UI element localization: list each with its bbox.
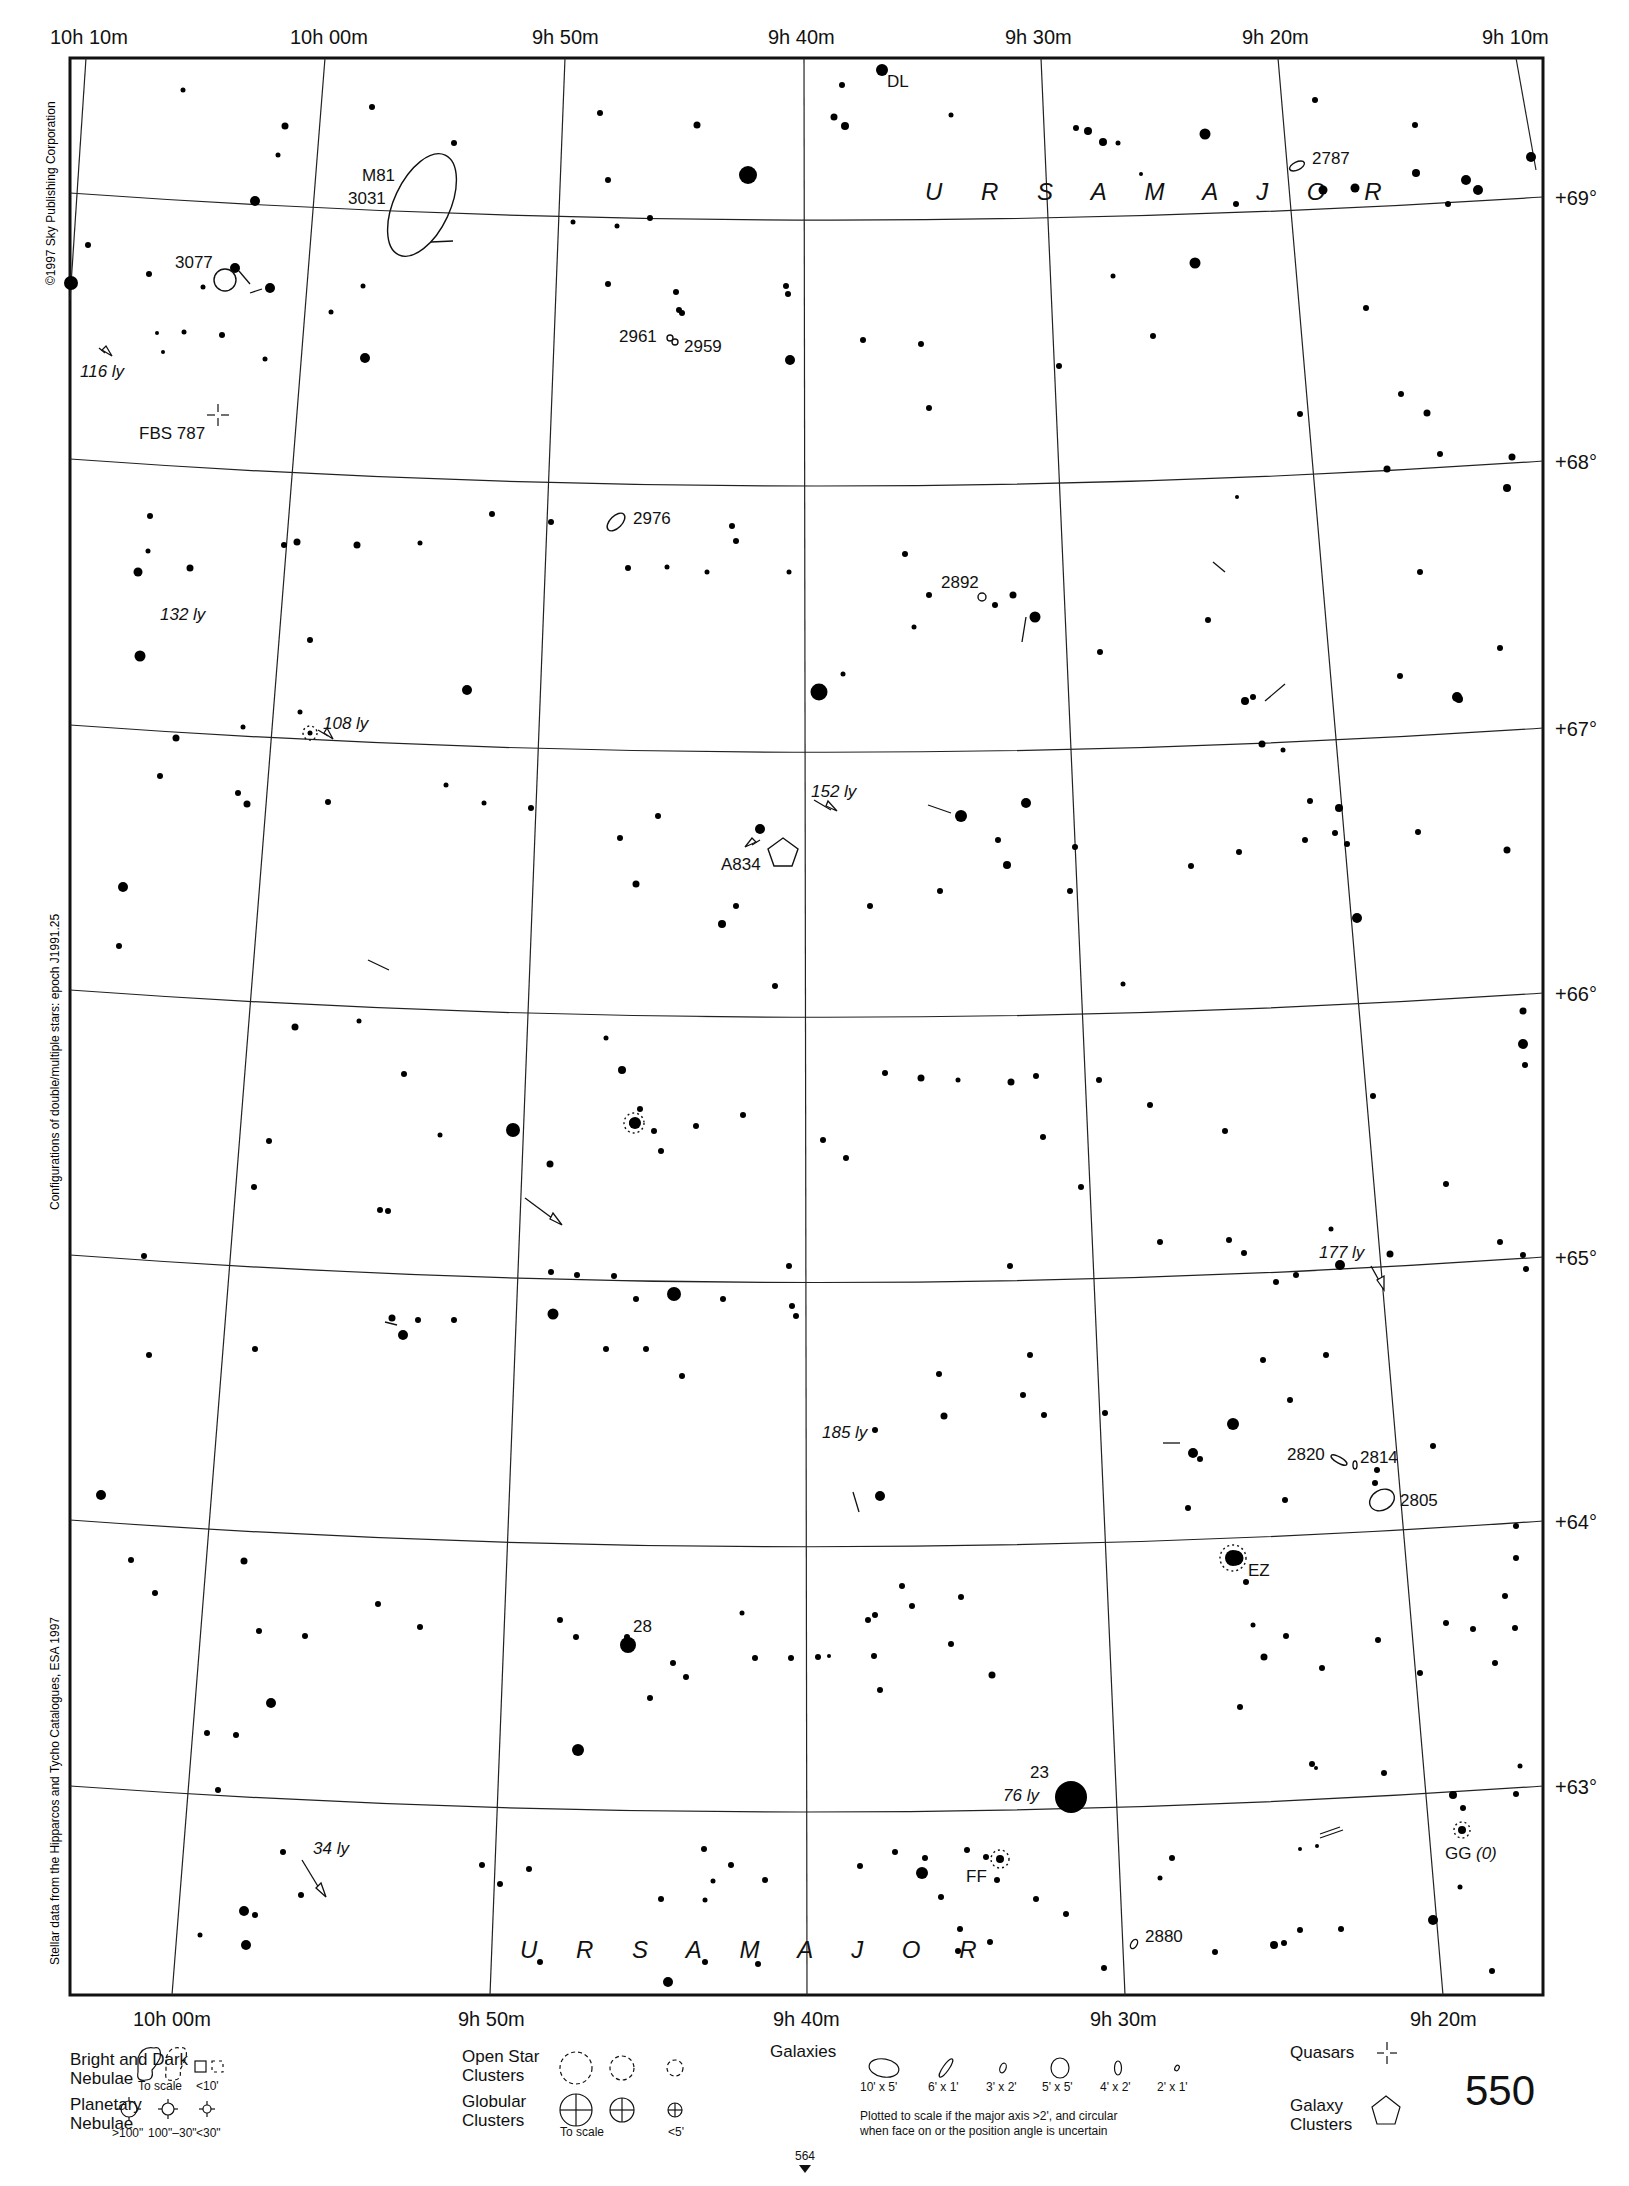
label-a834: A834 (721, 855, 761, 874)
label-star-28: 28 (633, 1617, 652, 1636)
legend-globular-clusters: Globular Clusters To scale <5' (462, 2092, 684, 2139)
small-dark-nebula-icon (212, 2061, 223, 2072)
legend-small-label: <30" (196, 2126, 221, 2140)
variable-star-centers (308, 731, 1467, 1864)
copyright-text: ©1997 Sky Publishing Corporation (44, 101, 58, 285)
galaxy-2814 (1353, 1461, 1357, 1469)
distance-label: 34 ly (313, 1839, 350, 1858)
legend-label: Clusters (1290, 2115, 1352, 2134)
legend-note: when face on or the position angle is un… (859, 2124, 1108, 2138)
legend-small-label: <5' (668, 2125, 684, 2139)
label-m81: M81 (362, 166, 395, 185)
dec-label: +63° (1555, 1776, 1597, 1798)
small-nebula-icon (195, 2061, 206, 2072)
legend-label: Quasars (1290, 2043, 1354, 2062)
label-2820: 2820 (1287, 1445, 1325, 1464)
legend-open-clusters: Open Star Clusters (462, 2047, 683, 2085)
label-2959: 2959 (684, 337, 722, 356)
dec-labels: +69° +68° +67° +66° +65° +64° +63° (1555, 187, 1597, 1798)
distance-label: 132 ly (160, 605, 207, 624)
legend-small-label: 3' x 2' (986, 2080, 1017, 2094)
dec-label: +66° (1555, 983, 1597, 1005)
ra-label: 9h 20m (1410, 2008, 1477, 2030)
label-ff: FF (966, 1867, 987, 1886)
legend-label: Globular (462, 2092, 527, 2111)
label-2805: 2805 (1400, 1491, 1438, 1510)
legend-small-label: 4' x 2' (1100, 2080, 1131, 2094)
legend-small-label: To scale (138, 2079, 182, 2093)
legend-label: Nebulae (70, 2069, 133, 2088)
galaxy-2892 (978, 593, 986, 601)
label-2961: 2961 (619, 327, 657, 346)
label-2814: 2814 (1360, 1448, 1398, 1467)
label-gg-note: (0) (1476, 1844, 1497, 1863)
ra-label: 9h 20m (1242, 26, 1309, 48)
dec-label: +67° (1555, 718, 1597, 740)
distance-label: 152 ly (811, 782, 858, 801)
ra-labels-bottom: 10h 00m 9h 50m 9h 40m 9h 30m 9h 20m (133, 2008, 1477, 2030)
galaxy-2976 (604, 510, 628, 534)
label-star-23: 23 (1030, 1763, 1049, 1782)
ra-label: 9h 50m (532, 26, 599, 48)
galaxy-2805 (1366, 1485, 1399, 1515)
legend-quasars: Quasars (1290, 2042, 1397, 2064)
label-3077: 3077 (175, 253, 213, 272)
configurations-text: Configurations of double/multiple stars:… (48, 913, 62, 1210)
star-chart: 10h 10m 10h 00m 9h 50m 9h 40m 9h 30m 9h … (0, 0, 1629, 2186)
distance-labels: 116 ly 132 ly 108 ly 152 ly 177 ly 185 l… (80, 362, 1366, 1858)
quasar-fbs787 (207, 404, 229, 426)
adjacent-chart-number[interactable]: 564 (795, 2149, 815, 2163)
ra-label: 10h 10m (50, 26, 128, 48)
galaxy-2959 (672, 339, 678, 345)
legend-label: Open Star (462, 2047, 540, 2066)
object-labels: M81 3031 3077 2787 2961 2959 FBS 787 297… (139, 72, 1497, 1946)
label-gg: GG (1445, 1844, 1471, 1863)
label-2880: 2880 (1145, 1927, 1183, 1946)
distance-label: 76 ly (1003, 1786, 1040, 1805)
label-3031: 3031 (348, 189, 386, 208)
label-ez: EZ (1248, 1561, 1270, 1580)
galaxy-2880 (1129, 1938, 1139, 1950)
motion-markers (99, 241, 1384, 1897)
dec-label: +64° (1555, 1511, 1597, 1533)
dec-label: +68° (1555, 451, 1597, 473)
distance-label: 108 ly (323, 714, 370, 733)
ra-label: 10h 00m (133, 2008, 211, 2030)
label-2892: 2892 (941, 573, 979, 592)
legend-note: Plotted to scale if the major axis >2', … (860, 2109, 1117, 2123)
legend-nebulae: Bright and Dark Nebulae To scale <10' (70, 2048, 223, 2093)
legend-small-label: 2' x 1' (1157, 2080, 1188, 2094)
legend-galaxy-clusters: Galaxy Clusters (1290, 2096, 1400, 2134)
legend: Bright and Dark Nebulae To scale <10' Pl… (70, 2042, 1535, 2173)
ra-label: 9h 30m (1005, 26, 1072, 48)
legend-label: Galaxies (770, 2042, 836, 2061)
ra-labels-top: 10h 10m 10h 00m 9h 50m 9h 40m 9h 30m 9h … (50, 26, 1549, 48)
label-fbs787: FBS 787 (139, 424, 205, 443)
label-2976: 2976 (633, 509, 671, 528)
dec-label: +65° (1555, 1247, 1597, 1269)
galaxy-m81 (373, 143, 470, 266)
galaxy-cluster-icon (1372, 2096, 1400, 2124)
legend-label: Bright and Dark (70, 2050, 189, 2069)
galaxy-cluster-a834 (768, 838, 798, 866)
legend-small-label: <10' (196, 2079, 219, 2093)
distance-label: 185 ly (822, 1423, 869, 1442)
legend-small-label: 10' x 5' (860, 2080, 897, 2094)
quasar-icon (1377, 2042, 1397, 2064)
legend-small-label: To scale (560, 2125, 604, 2139)
legend-label: Galaxy (1290, 2096, 1343, 2115)
adjacent-chart-link[interactable]: 564 (795, 2149, 815, 2173)
label-dl: DL (887, 72, 909, 91)
legend-small-label: 5' x 5' (1042, 2080, 1073, 2094)
galaxy-3077 (214, 269, 236, 291)
dec-label: +69° (1555, 187, 1597, 209)
ra-label: 10h 00m (290, 26, 368, 48)
legend-label: Clusters (462, 2111, 524, 2130)
ra-label: 9h 50m (458, 2008, 525, 2030)
distance-label: 116 ly (80, 362, 126, 381)
stellar-data-text: Stellar data from the Hipparcos and Tych… (48, 1617, 62, 1965)
page-number: 550 (1465, 2067, 1535, 2114)
galaxy-2820 (1330, 1453, 1349, 1467)
ra-label: 9h 30m (1090, 2008, 1157, 2030)
arrow-down-icon[interactable] (799, 2165, 811, 2173)
